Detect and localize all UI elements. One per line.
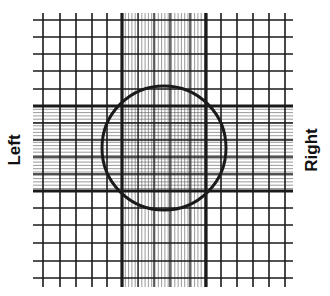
right-label: Right [302, 128, 322, 171]
left-label: Left [5, 134, 25, 165]
regular-grid-lines [33, 13, 293, 287]
grid-diagram: Left Right [0, 0, 330, 296]
grid-canvas [0, 0, 330, 296]
